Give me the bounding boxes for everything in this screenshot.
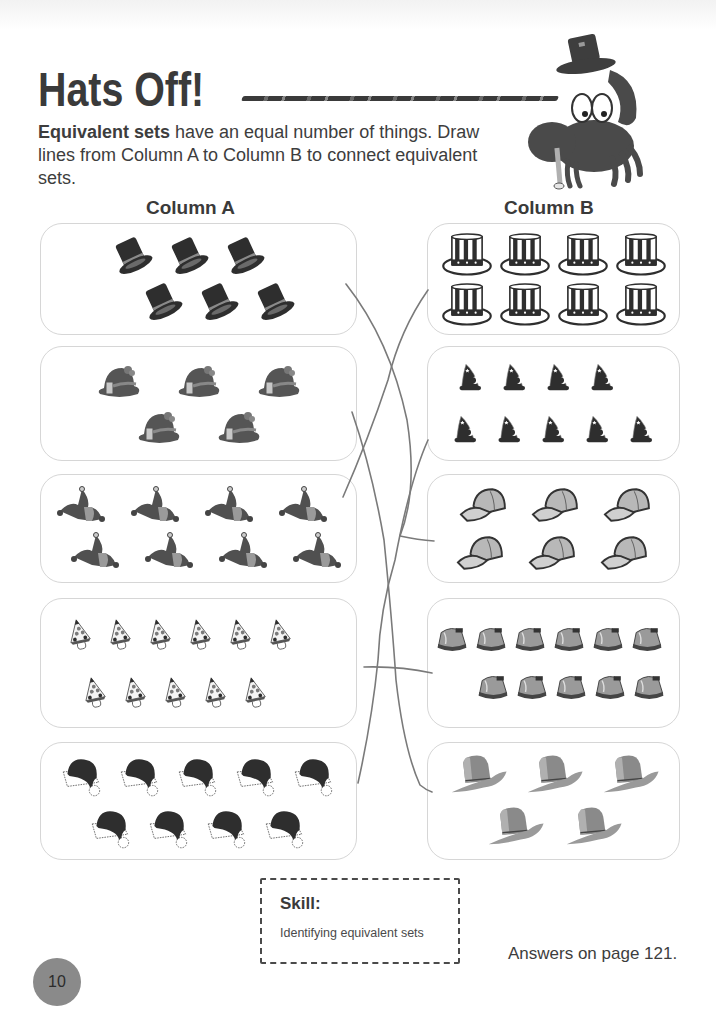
connection-line-a4-b4 [364, 667, 432, 673]
wizard-hat-icon [453, 353, 489, 403]
wizard-hat-icon [580, 405, 616, 455]
skill-description: Identifying equivalent sets [280, 926, 424, 940]
column-a-set-4[interactable] [40, 598, 357, 728]
jester-hat-icon [198, 485, 260, 527]
santa-hat-icon [57, 751, 109, 799]
hat-row [75, 663, 273, 721]
uncle-sam-hat-icon [556, 231, 610, 277]
party-hat-icon [180, 605, 218, 663]
uncle-sam-hat-icon [440, 281, 494, 327]
hat-row [434, 617, 665, 661]
hat-row [440, 281, 668, 327]
santa-hat-icon [231, 751, 283, 799]
connection-line-a2-b5 [352, 412, 432, 792]
baseball-cap-icon [451, 531, 513, 575]
party-hat-icon [260, 605, 298, 663]
hat-row [57, 751, 341, 799]
bonnet-hat-icon [247, 360, 311, 402]
column-b-set-2[interactable] [427, 346, 680, 461]
bell-hat-icon [473, 617, 509, 661]
cowboy-hat-icon [560, 803, 626, 851]
bonnet-hat-icon [167, 360, 231, 402]
hat-grid [428, 743, 679, 859]
column-a-set-1[interactable] [40, 223, 357, 335]
column-a-set-5[interactable] [40, 742, 357, 860]
uncle-sam-hat-icon [440, 231, 494, 277]
uncle-sam-hat-icon [614, 231, 668, 277]
santa-hat-icon [173, 751, 225, 799]
bell-hat-icon [514, 665, 550, 709]
column-b-set-5[interactable] [427, 742, 680, 860]
party-hat-icon [60, 605, 98, 663]
skill-box: Skill: Identifying equivalent sets [260, 878, 460, 964]
crab-with-top-hat-icon [512, 30, 652, 200]
uncle-sam-hat-icon [498, 281, 552, 327]
bonnet-hat-icon [207, 406, 271, 448]
hat-grid [41, 347, 356, 460]
cowboy-hat-icon [482, 803, 548, 851]
hat-row [108, 235, 270, 277]
page-shadow [0, 0, 716, 30]
bell-hat-icon [475, 665, 511, 709]
party-hat-icon [155, 663, 193, 721]
column-b-heading: Column B [504, 197, 594, 219]
cowboy-hat-icon [521, 751, 587, 799]
column-a-heading: Column A [146, 197, 235, 219]
wizard-hat-icon [541, 353, 577, 403]
column-a-set-2[interactable] [40, 346, 357, 461]
bell-hat-icon [592, 665, 628, 709]
instructions: Equivalent sets have an equal number of … [38, 121, 508, 190]
wizard-hat-icon [536, 405, 572, 455]
hat-row [482, 803, 626, 851]
wizard-hat-icon [492, 405, 528, 455]
top-hat-icon [164, 235, 214, 277]
santa-hat-icon [115, 751, 167, 799]
hat-row [50, 485, 334, 527]
hat-grid [41, 743, 356, 859]
baseball-cap-icon [595, 531, 657, 575]
top-hat-icon [108, 235, 158, 277]
hat-grid [428, 224, 679, 334]
uncle-sam-hat-icon [498, 231, 552, 277]
uncle-sam-hat-icon [556, 281, 610, 327]
connection-line-a5-b2 [358, 440, 428, 783]
bell-hat-icon [590, 617, 626, 661]
baseball-cap-icon [454, 483, 516, 527]
hat-row [453, 353, 621, 403]
bell-hat-icon [553, 665, 589, 709]
column-a-set-3[interactable] [40, 474, 357, 583]
top-hat-icon [250, 281, 300, 323]
bonnet-hat-icon [87, 360, 151, 402]
wizard-hat-icon [624, 405, 660, 455]
hat-row [440, 231, 668, 277]
page-number: 10 [48, 973, 66, 991]
party-hat-icon [100, 605, 138, 663]
hat-row [451, 531, 657, 575]
party-hat-icon [235, 663, 273, 721]
jester-hat-icon [50, 485, 112, 527]
party-hat-icon [140, 605, 178, 663]
hat-row [86, 803, 312, 851]
column-b-set-1[interactable] [427, 223, 680, 335]
column-b-set-3[interactable] [427, 474, 680, 583]
hat-row [475, 665, 667, 709]
top-hat-icon [194, 281, 244, 323]
wizard-hat-icon [497, 353, 533, 403]
bell-hat-icon [629, 617, 665, 661]
hat-grid [428, 599, 679, 727]
santa-hat-icon [86, 803, 138, 851]
baseball-cap-icon [523, 531, 585, 575]
hat-row [138, 281, 300, 323]
party-hat-icon [115, 663, 153, 721]
skill-title: Skill: [280, 894, 321, 914]
bell-hat-icon [631, 665, 667, 709]
hat-row [454, 483, 660, 527]
uncle-sam-hat-icon [614, 281, 668, 327]
answers-reference: Answers on page 121. [508, 944, 677, 964]
hat-grid [41, 224, 356, 334]
hat-grid [41, 475, 356, 582]
wizard-hat-icon [585, 353, 621, 403]
column-b-set-4[interactable] [427, 598, 680, 728]
santa-hat-icon [202, 803, 254, 851]
jester-hat-icon [138, 531, 200, 573]
